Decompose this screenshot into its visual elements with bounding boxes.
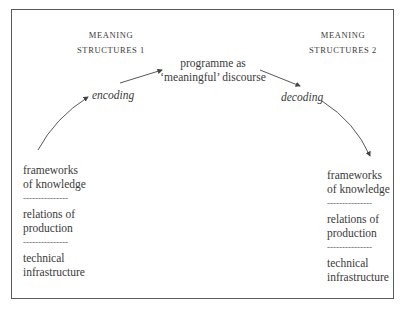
stack-separator: --------------- xyxy=(327,241,390,253)
stack-line: frameworks xyxy=(23,163,86,177)
stack-separator: --------------- xyxy=(327,197,390,209)
stack-separator: --------------- xyxy=(23,236,86,248)
stack-line: technical xyxy=(23,251,86,265)
right-structure-stack: frameworks of knowledge --------------- … xyxy=(327,168,390,284)
stack-separator: --------------- xyxy=(23,192,86,204)
stack-line: production xyxy=(23,221,86,235)
stack-item-technical: technical infrastructure xyxy=(23,251,86,279)
stack-item-relations: relations of production xyxy=(327,212,390,240)
decoding-label: decoding xyxy=(281,91,323,103)
arrow-encoding-to-programme xyxy=(120,70,162,83)
stack-line: technical xyxy=(327,256,390,270)
stack-line: frameworks xyxy=(327,168,390,182)
meaning-structures-1-header: MEANING STRUCTURES 1 xyxy=(56,28,166,58)
stack-line: infrastructure xyxy=(23,265,86,279)
stack-item-frameworks: frameworks of knowledge xyxy=(327,168,390,196)
stack-line: infrastructure xyxy=(327,270,390,284)
stack-line: relations of xyxy=(23,207,86,221)
meaning-structures-2-header: MEANING STRUCTURES 2 xyxy=(290,28,396,58)
stack-item-relations: relations of production xyxy=(23,207,86,235)
stack-line: of knowledge xyxy=(327,182,390,196)
header-line: STRUCTURES 2 xyxy=(290,43,396,58)
stack-item-frameworks: frameworks of knowledge xyxy=(23,163,86,191)
arrow-decoding-to-right xyxy=(322,101,370,156)
stack-line: relations of xyxy=(327,212,390,226)
header-line: STRUCTURES 1 xyxy=(56,43,166,58)
center-line: programme as xyxy=(158,56,268,70)
left-structure-stack: frameworks of knowledge --------------- … xyxy=(23,163,86,279)
header-line: MEANING xyxy=(56,28,166,43)
center-line: ‘meaningful’ discourse xyxy=(158,70,268,84)
encoding-label: encoding xyxy=(92,89,134,101)
stack-line: production xyxy=(327,226,390,240)
programme-discourse-label: programme as ‘meaningful’ discourse xyxy=(158,56,268,84)
arrow-to-encoding xyxy=(38,97,88,150)
stack-line: of knowledge xyxy=(23,177,86,191)
header-line: MEANING xyxy=(290,28,396,43)
stack-item-technical: technical infrastructure xyxy=(327,256,390,284)
